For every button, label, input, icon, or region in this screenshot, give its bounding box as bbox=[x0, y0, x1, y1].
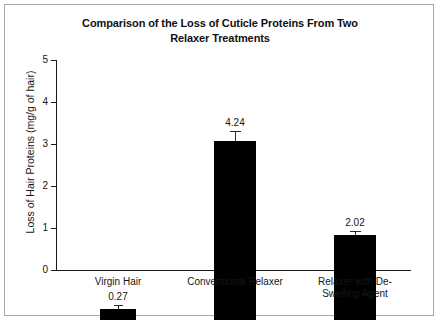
y-axis-line bbox=[56, 60, 57, 271]
category-label-conventional-relaxer: Conventional Relaxer bbox=[180, 276, 290, 288]
y-tick-mark-0 bbox=[51, 270, 56, 271]
value-label-conventional-relaxer: 4.24 bbox=[205, 117, 265, 128]
error-bar-cap-virgin-hair bbox=[114, 305, 123, 306]
chart-title: Comparison of the Loss of Cuticle Protei… bbox=[50, 16, 390, 46]
category-label-deswelling-relaxer-line-2: Swelling Agent bbox=[305, 288, 405, 300]
value-label-deswelling-relaxer: 2.02 bbox=[325, 217, 385, 228]
y-tick-labels: 5 4 3 2 1 0 bbox=[22, 0, 48, 320]
chart-figure: Comparison of the Loss of Cuticle Protei… bbox=[0, 0, 438, 320]
error-bar-cap-conventional-relaxer bbox=[230, 131, 241, 132]
y-tick-mark-3 bbox=[51, 144, 56, 145]
error-bar-stem-deswelling-relaxer bbox=[355, 232, 356, 235]
y-tick-label-0: 0 bbox=[26, 264, 48, 275]
y-tick-mark-1 bbox=[51, 228, 56, 229]
category-label-virgin-hair-line-1: Virgin Hair bbox=[78, 276, 158, 288]
category-label-conventional-relaxer-line-1: Conventional Relaxer bbox=[180, 276, 290, 288]
y-tick-label-2: 2 bbox=[26, 180, 48, 191]
y-tick-label-4: 4 bbox=[26, 96, 48, 107]
error-bar-stem-virgin-hair bbox=[118, 306, 119, 309]
y-tick-mark-5 bbox=[51, 60, 56, 61]
value-label-virgin-hair: 0.27 bbox=[88, 291, 148, 302]
chart-title-line-1: Comparison of the Loss of Cuticle Protei… bbox=[50, 16, 390, 31]
y-tick-label-1: 1 bbox=[26, 222, 48, 233]
bar-virgin-hair bbox=[100, 309, 136, 320]
error-bar-stem-conventional-relaxer bbox=[235, 132, 236, 141]
error-bar-cap-deswelling-relaxer bbox=[350, 231, 361, 232]
bar-conventional-relaxer bbox=[214, 141, 256, 320]
y-tick-mark-4 bbox=[51, 102, 56, 103]
chart-title-line-2: Relaxer Treatments bbox=[50, 31, 390, 46]
y-tick-mark-2 bbox=[51, 186, 56, 187]
category-label-virgin-hair: Virgin Hair bbox=[78, 276, 158, 288]
bar-group-conventional-relaxer: 4.24 bbox=[214, 109, 256, 320]
y-tick-label-5: 5 bbox=[26, 54, 48, 65]
bar-group-virgin-hair: 0.27 bbox=[100, 109, 136, 320]
y-tick-label-3: 3 bbox=[26, 138, 48, 149]
category-label-deswelling-relaxer-line-1: Relaxer with De- bbox=[305, 276, 405, 288]
category-label-deswelling-relaxer: Relaxer with De- Swelling Agent bbox=[305, 276, 405, 300]
